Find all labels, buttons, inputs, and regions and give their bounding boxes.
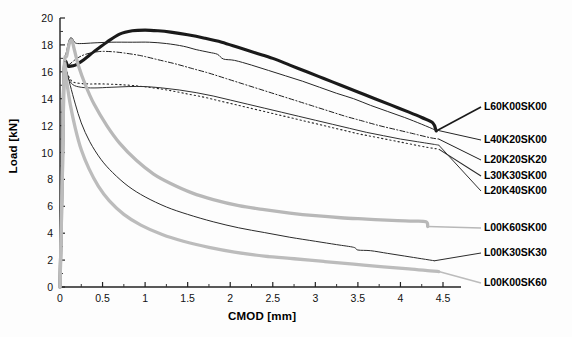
y-tick-label: 18 xyxy=(41,39,53,51)
tick-labels-layer: 00.511.522.533.544.502468101214161820 xyxy=(41,12,450,304)
series-line-L60K00SK00 xyxy=(60,30,436,287)
leader-line-L40K20SK00 xyxy=(434,130,481,140)
series-label-L00K00SK60: L00K00SK60 xyxy=(484,276,547,288)
y-axis-title: Load [kN] xyxy=(7,111,19,181)
data-series-layer xyxy=(60,30,439,287)
leader-line-L00K60SK00 xyxy=(428,226,481,228)
y-tick-label: 8 xyxy=(47,173,53,185)
x-tick-label: 4 xyxy=(398,292,404,304)
series-label-L20K40SK00: L20K40SK00 xyxy=(484,184,547,196)
series-label-L60K00SK00: L60K00SK00 xyxy=(484,100,547,112)
series-label-L00K60SK00: L00K60SK00 xyxy=(484,221,547,233)
leader-line-L20K20SK20 xyxy=(439,139,481,160)
x-tick-label: 3.5 xyxy=(351,292,366,304)
y-tick-label: 10 xyxy=(41,147,53,159)
series-label-L30K30SK00: L30K30SK00 xyxy=(484,169,547,181)
x-tick-label: 2 xyxy=(227,292,233,304)
leader-line-L00K30SK30 xyxy=(434,253,481,261)
x-tick-label: 0 xyxy=(57,292,63,304)
leader-line-L30K30SK00 xyxy=(439,149,481,176)
x-tick-label: 1 xyxy=(142,292,148,304)
leader-line-L00K00SK60 xyxy=(439,272,481,283)
y-tick-label: 12 xyxy=(41,120,53,132)
x-axis-title: CMOD [mm] xyxy=(228,310,296,322)
y-tick-label: 0 xyxy=(47,281,53,293)
y-tick-label: 6 xyxy=(47,200,53,212)
y-tick-label: 14 xyxy=(41,93,53,105)
leader-line-L60K00SK00 xyxy=(436,107,481,131)
x-tick-label: 2.5 xyxy=(265,292,280,304)
series-label-L00K30SK30: L00K30SK30 xyxy=(484,246,547,258)
series-label-L20K20SK20: L20K20SK20 xyxy=(484,153,547,165)
axes-layer xyxy=(60,18,461,287)
series-line-L00K00SK60 xyxy=(60,64,439,287)
y-tick-label: 20 xyxy=(41,12,53,24)
series-label-L40K20SK00: L40K20SK00 xyxy=(484,133,547,145)
tick-marks-layer xyxy=(60,18,443,287)
series-line-L00K60SK00 xyxy=(60,40,428,287)
x-tick-label: 0.5 xyxy=(95,292,110,304)
y-tick-label: 2 xyxy=(47,254,53,266)
x-tick-label: 4.5 xyxy=(436,292,451,304)
y-tick-label: 16 xyxy=(41,66,53,78)
figure-container: 00.511.522.533.544.502468101214161820 CM… xyxy=(0,0,572,337)
x-tick-label: 1.5 xyxy=(180,292,195,304)
x-tick-label: 3 xyxy=(312,292,318,304)
y-tick-label: 4 xyxy=(47,227,53,239)
series-line-L40K20SK00 xyxy=(60,38,434,287)
leader-line-L20K40SK00 xyxy=(439,145,481,191)
label-leader-lines-layer xyxy=(428,107,481,283)
